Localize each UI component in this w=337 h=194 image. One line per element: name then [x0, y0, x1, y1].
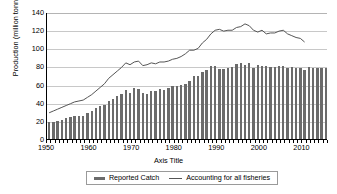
line-series-accounting-for-all-fisheries — [47, 13, 328, 140]
plot-area — [46, 13, 327, 140]
y-tick-label: 100 — [24, 45, 44, 53]
x-tick-label: 1960 — [72, 143, 106, 152]
y-tick-label: 40 — [24, 100, 44, 108]
x-axis-tick-labels: 1950196019701980199020002010 — [0, 143, 337, 155]
fisheries-production-chart: Production (million tonnes) 020406080100… — [0, 0, 337, 194]
line-swatch-icon — [169, 178, 182, 179]
x-tick-label: 1950 — [29, 143, 63, 152]
x-tick-label: 2000 — [242, 143, 276, 152]
x-tick-label: 2010 — [284, 143, 318, 152]
x-tick-label: 1970 — [114, 143, 148, 152]
x-tick-label: 1990 — [199, 143, 233, 152]
legend-item-accounting-for-all-fisheries: Accounting for all fisheries — [169, 174, 270, 182]
y-tick-label: 20 — [24, 118, 44, 126]
legend-label-accounting-for-all-fisheries: Accounting for all fisheries — [186, 174, 270, 182]
legend-label-reported-catch: Reported Catch — [109, 174, 159, 182]
y-tick-label: 80 — [24, 63, 44, 71]
x-tick-label: 1980 — [157, 143, 191, 152]
bar-swatch-icon — [94, 177, 105, 180]
y-tick-label: 120 — [24, 27, 44, 35]
legend-item-reported-catch: Reported Catch — [94, 174, 159, 182]
chart-legend: Reported Catch Accounting for all fisher… — [86, 171, 278, 185]
y-tick-label: 140 — [24, 9, 44, 17]
x-axis-title: Axis Title — [0, 156, 337, 165]
y-tick-label: 60 — [24, 82, 44, 90]
